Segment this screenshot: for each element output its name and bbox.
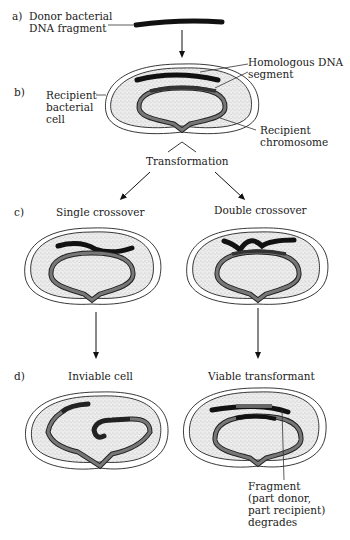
- recipient-cell-b: [96, 64, 259, 134]
- transformation-split: [122, 142, 243, 198]
- recipient-chromosome-label-1: Recipient: [260, 124, 311, 136]
- inviable-cell: [25, 392, 168, 469]
- transformation-label: Transformation: [146, 155, 229, 167]
- homologous-label-2: segment: [248, 68, 293, 80]
- panel-c-tag: c): [14, 206, 24, 218]
- recipient-cell-label-2: bacterial: [46, 101, 93, 113]
- fragment-label-1: Fragment: [248, 480, 300, 492]
- donor-dna-fragment: [108, 21, 222, 25]
- fragment-label-2: (part donor,: [248, 492, 311, 504]
- recipient-chromosome-label-2: chromosome: [260, 136, 328, 148]
- double-crossover-cell: [187, 228, 328, 304]
- viable-transformant-title: Viable transformant: [208, 370, 315, 382]
- donor-fragment-label-2: DNA fragment: [29, 22, 107, 34]
- panel-b-tag: b): [14, 86, 25, 98]
- inviable-cell-title: Inviable cell: [68, 370, 133, 382]
- single-crossover-title: Single crossover: [56, 206, 144, 218]
- homologous-label-1: Homologous DNA: [248, 56, 343, 68]
- double-crossover-title: Double crossover: [214, 204, 307, 216]
- fragment-label-4: degrades: [248, 516, 297, 528]
- panel-a-tag: a): [12, 10, 22, 22]
- recipient-cell-label-1: Recipient: [46, 89, 97, 101]
- panel-d-tag: d): [14, 370, 25, 382]
- transformation-diagram: [0, 0, 350, 540]
- donor-fragment-label-1: Donor bacterial: [29, 10, 112, 22]
- fragment-label-3: part recipient): [248, 504, 325, 516]
- recipient-cell-label-3: cell: [46, 113, 65, 125]
- single-crossover-cell: [25, 228, 161, 304]
- viable-transformant-cell: [183, 388, 326, 480]
